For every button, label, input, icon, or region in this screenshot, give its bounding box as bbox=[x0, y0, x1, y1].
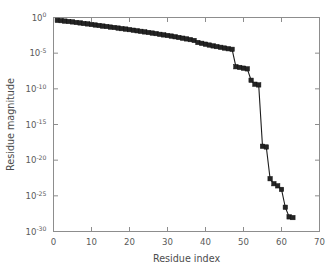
plot-frame bbox=[54, 18, 320, 232]
data-marker bbox=[245, 67, 249, 71]
y-tick-label: 10-15 bbox=[25, 118, 46, 129]
data-markers bbox=[55, 18, 295, 220]
data-marker bbox=[264, 145, 268, 149]
x-tick-label: 70 bbox=[314, 237, 325, 247]
y-tick-label: 10-25 bbox=[25, 190, 46, 201]
x-axis-tick-labels: 010203040506070 bbox=[51, 237, 325, 247]
x-tick-label: 10 bbox=[86, 237, 97, 247]
y-tick-label: 100 bbox=[32, 11, 47, 22]
x-axis-ticks bbox=[54, 18, 320, 232]
data-marker bbox=[230, 47, 234, 51]
y-tick-label: 10-20 bbox=[25, 154, 46, 165]
y-axis-label: Residue magnitude bbox=[5, 78, 16, 171]
x-tick-label: 30 bbox=[162, 237, 173, 247]
x-tick-label: 40 bbox=[200, 237, 211, 247]
figure-container: 010203040506070 10010-510-1010-1510-2010… bbox=[0, 0, 333, 268]
y-axis-ticks bbox=[54, 18, 320, 232]
residue-magnitude-chart: 010203040506070 10010-510-1010-1510-2010… bbox=[0, 0, 333, 268]
x-tick-label: 0 bbox=[51, 237, 56, 247]
x-tick-label: 50 bbox=[238, 237, 249, 247]
y-tick-label: 10-30 bbox=[25, 225, 46, 236]
data-line bbox=[57, 20, 293, 217]
data-marker bbox=[279, 187, 283, 191]
y-axis-tick-labels: 10010-510-1010-1510-2010-2510-30 bbox=[25, 11, 46, 236]
x-axis-label: Residue index bbox=[153, 253, 220, 264]
data-marker bbox=[257, 83, 261, 87]
y-tick-label: 10-5 bbox=[29, 47, 46, 58]
data-marker bbox=[291, 215, 295, 219]
axes-group bbox=[54, 18, 320, 232]
data-series-residue bbox=[55, 18, 295, 220]
data-marker bbox=[268, 177, 272, 181]
x-tick-label: 20 bbox=[124, 237, 135, 247]
y-tick-label: 10-10 bbox=[25, 83, 46, 94]
x-tick-label: 60 bbox=[276, 237, 287, 247]
data-marker bbox=[283, 205, 287, 209]
